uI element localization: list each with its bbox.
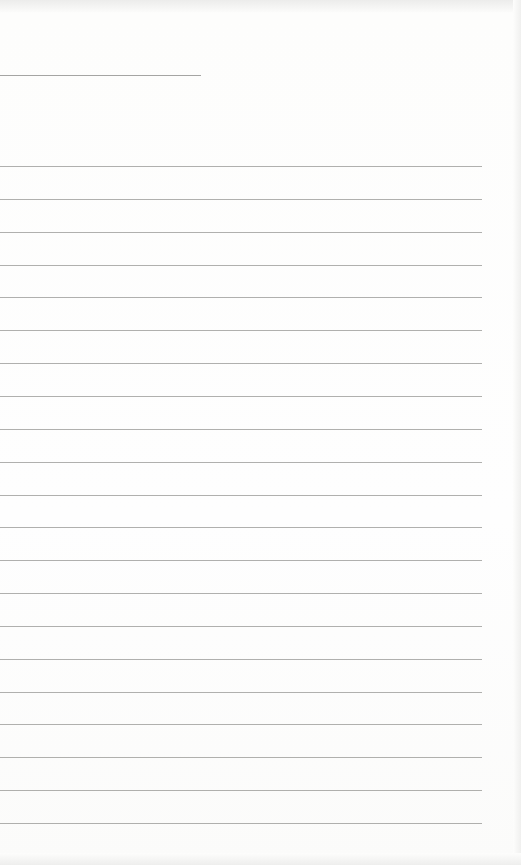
scan-bottom-edge <box>0 853 521 865</box>
ruled-line <box>0 495 482 496</box>
ruled-line <box>0 527 482 528</box>
ruled-line <box>0 166 482 167</box>
lined-paper-page <box>0 0 521 865</box>
ruled-line <box>0 560 482 561</box>
header-rule <box>0 75 201 76</box>
ruled-line <box>0 823 482 824</box>
ruled-line <box>0 692 482 693</box>
ruled-line <box>0 363 482 364</box>
scan-top-edge <box>0 0 521 12</box>
ruled-line <box>0 297 482 298</box>
ruled-line <box>0 593 482 594</box>
ruled-line <box>0 232 482 233</box>
ruled-line <box>0 757 482 758</box>
scan-right-edge <box>513 0 521 865</box>
ruled-line <box>0 659 482 660</box>
ruled-line <box>0 265 482 266</box>
ruled-line <box>0 724 482 725</box>
ruled-line <box>0 396 482 397</box>
ruled-line <box>0 330 482 331</box>
ruled-line <box>0 462 482 463</box>
ruled-line <box>0 790 482 791</box>
ruled-line <box>0 429 482 430</box>
ruled-line <box>0 199 482 200</box>
ruled-line <box>0 626 482 627</box>
